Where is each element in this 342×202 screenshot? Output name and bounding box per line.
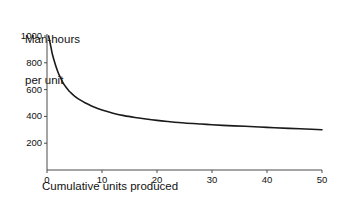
- axes: [47, 34, 322, 170]
- data-series-line: [49, 36, 322, 130]
- tick-marks: [44, 36, 322, 173]
- learning-curve-chart: Man-hours per unit Cumulative units prod…: [0, 0, 342, 202]
- plot-area: [0, 0, 342, 202]
